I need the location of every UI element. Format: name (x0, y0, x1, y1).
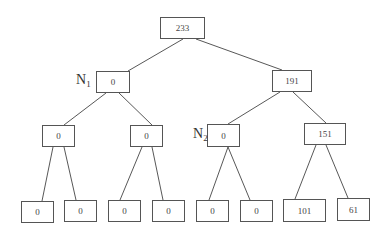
node-value: 0 (221, 131, 226, 141)
node-label-n2: N2 (193, 127, 208, 143)
tree-leaf-1: 0 (21, 201, 54, 223)
node-value: 0 (122, 206, 127, 216)
node-value: 0 (166, 206, 171, 216)
node-label-n1: N1 (76, 73, 91, 89)
tree-leaf-8: 61 (337, 198, 370, 221)
node-value: 151 (318, 129, 332, 139)
tree-node-n1: 0 (96, 71, 130, 93)
node-value: 233 (176, 23, 190, 33)
label-main: N (76, 72, 86, 87)
tree-node-level3-b: 0 (130, 125, 163, 147)
tree-node-191: 191 (272, 70, 312, 92)
node-value: 0 (78, 206, 83, 216)
node-value: 0 (144, 131, 149, 141)
tree-node-151: 151 (304, 123, 346, 145)
tree-node-root: 233 (160, 17, 205, 39)
tree-leaf-7: 101 (283, 199, 326, 222)
node-value: 61 (349, 205, 358, 215)
tree-node-n2: 0 (207, 124, 240, 147)
label-subscript: 2 (203, 133, 208, 143)
label-subscript: 1 (86, 79, 91, 89)
node-value: 0 (111, 77, 116, 87)
node-value: 191 (285, 76, 299, 86)
tree-leaf-5: 0 (196, 200, 229, 222)
tree-node-level3-a: 0 (42, 125, 75, 147)
node-value: 0 (254, 206, 259, 216)
label-main: N (193, 126, 203, 141)
tree-leaf-4: 0 (152, 200, 185, 222)
node-value: 0 (35, 207, 40, 217)
tree-leaf-6: 0 (240, 200, 273, 222)
tree-leaf-3: 0 (108, 200, 141, 222)
node-value: 0 (56, 131, 61, 141)
tree-leaf-2: 0 (64, 200, 97, 222)
node-value: 0 (210, 206, 215, 216)
node-value: 101 (298, 206, 312, 216)
